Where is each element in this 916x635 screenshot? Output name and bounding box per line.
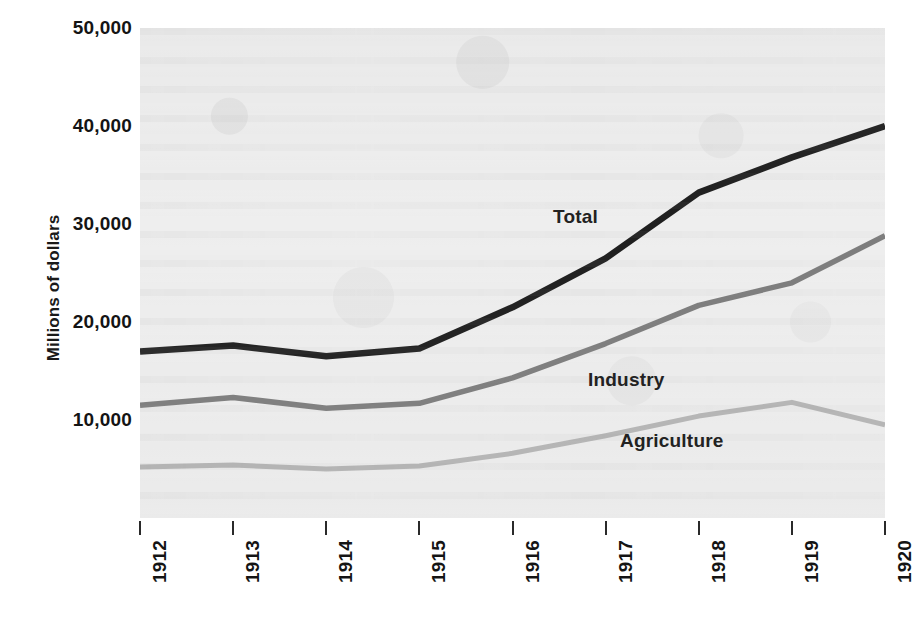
series-label-industry: Industry [588,369,665,391]
x-axis-tick-mark [418,521,420,535]
y-axis-tick-label: 40,000 [14,115,132,137]
x-axis-tick-mark [791,521,793,535]
x-axis-tick-label: 1917 [615,540,637,583]
x-axis-tick-label: 1918 [708,540,730,583]
x-axis-tick-label: 1912 [149,540,171,583]
y-axis-tick-labels: 10,00020,00030,00040,00050,000 [0,0,132,635]
series-label-total: Total [553,206,598,228]
x-axis-tick-mark [232,521,234,535]
plot-area [140,28,885,518]
x-axis-tick-label: 1919 [801,540,823,583]
x-axis-tick-mark [605,521,607,535]
x-axis-tick-mark [325,521,327,535]
x-axis-tick-mark [512,521,514,535]
x-axis: 191219131914191519161917191819191920 [140,518,885,635]
y-axis-tick-label: 50,000 [14,17,132,39]
series-label-agriculture: Agriculture [620,430,724,452]
x-axis-tick-label: 1920 [894,540,916,583]
x-axis-tick-mark [884,521,886,535]
series-line-agriculture [140,402,885,469]
series-line-industry [140,236,885,408]
x-axis-tick-label: 1915 [428,540,450,583]
x-axis-tick-mark [698,521,700,535]
x-axis-tick-mark [139,521,141,535]
y-axis-tick-label: 20,000 [14,311,132,333]
x-axis-tick-label: 1916 [522,540,544,583]
x-axis-tick-label: 1913 [242,540,264,583]
x-axis-tick-label: 1914 [335,540,357,583]
series-line-total [140,126,885,356]
y-axis-tick-label: 30,000 [14,213,132,235]
plot-series-svg [140,28,885,518]
y-axis-tick-label: 10,000 [14,409,132,431]
